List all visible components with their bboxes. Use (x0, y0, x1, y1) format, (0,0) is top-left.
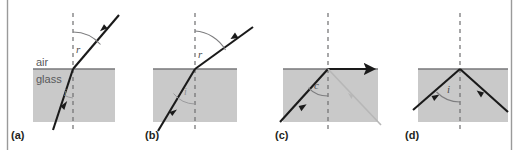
panel-d: i (d) (405, 13, 508, 141)
panel-caption-a: (a) (11, 129, 25, 141)
critical-angle-label-c: c (314, 79, 319, 91)
panel-a: r i air glass (a) (11, 13, 119, 141)
panel-b: r i (b) (145, 13, 253, 141)
refracted-ray-arrowhead-b (231, 33, 239, 40)
panel-caption-d: (d) (405, 129, 419, 141)
refraction-angle-label-a: r (76, 43, 81, 55)
glass-block-c (283, 69, 378, 122)
panel-caption-c: (c) (275, 129, 289, 141)
panel-c: c (c) (275, 13, 381, 141)
refracted-ray-a (73, 15, 119, 69)
incidence-angle-label-b: i (184, 86, 187, 97)
glass-label-a: glass (36, 73, 62, 85)
incidence-angle-label-a: i (64, 87, 67, 98)
figure-canvas: r i air glass (a) r i (b) (0, 0, 518, 150)
air-label-a: air (36, 56, 49, 68)
physics-figure-refraction: r i air glass (a) r i (b) (0, 0, 518, 150)
incidence-angle-label-d: i (447, 83, 450, 95)
glass-block-d (418, 69, 508, 122)
panel-caption-b: (b) (145, 129, 159, 141)
refraction-angle-label-b: r (198, 48, 203, 60)
